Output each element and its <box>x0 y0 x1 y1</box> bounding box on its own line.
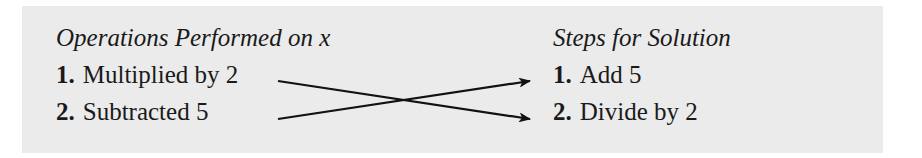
crossing-arrows <box>0 0 922 158</box>
